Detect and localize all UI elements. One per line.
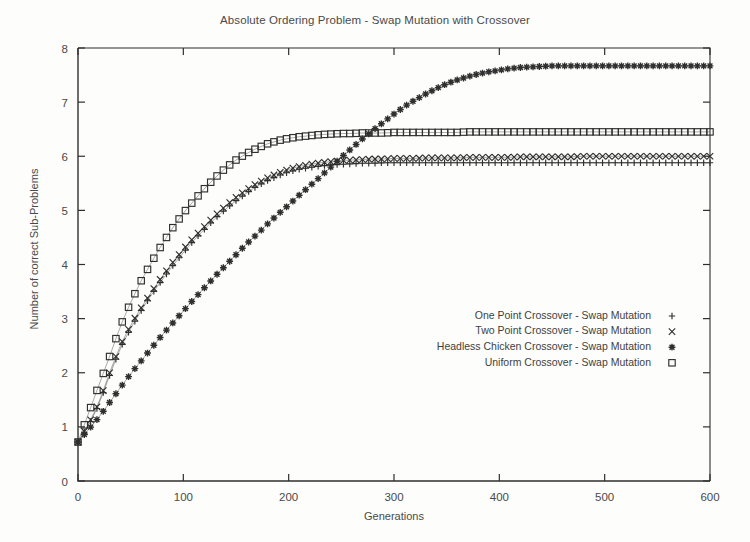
marker-star: [391, 111, 398, 118]
marker-star: [378, 120, 385, 127]
marker-star: [568, 62, 575, 69]
marker-plus: [315, 163, 321, 169]
x-tick-label: 400: [490, 491, 509, 503]
marker-star: [511, 65, 518, 72]
marker-plus: [125, 329, 131, 335]
legend-label-2: Headless Chicken Crossover - Swap Mutati…: [437, 340, 651, 352]
marker-star: [643, 62, 650, 69]
marker-star: [422, 91, 429, 98]
marker-star: [542, 63, 549, 70]
marker-star: [308, 181, 315, 188]
marker-star: [498, 66, 505, 73]
y-tick-label: 6: [62, 151, 68, 163]
marker-star: [700, 62, 707, 69]
marker-plus: [239, 193, 245, 199]
chart-figure: Absolute Ordering Problem - Swap Mutatio…: [0, 0, 750, 542]
marker-plus: [561, 160, 567, 166]
marker-star: [681, 62, 688, 69]
marker-star: [599, 62, 606, 69]
marker-star: [631, 62, 638, 69]
marker-plus: [644, 160, 650, 166]
marker-star: [479, 70, 486, 77]
marker-star: [555, 62, 562, 69]
marker-star: [656, 62, 663, 69]
marker-star: [618, 62, 625, 69]
marker-plus: [587, 160, 593, 166]
x-tick-label: 200: [279, 491, 298, 503]
marker-star: [258, 227, 265, 234]
marker-plus: [505, 160, 511, 166]
marker-plus: [650, 160, 656, 166]
marker-star: [182, 305, 189, 312]
legend-label-1: Two Point Crossover - Swap Mutation: [475, 324, 651, 336]
marker-plus: [580, 160, 586, 166]
marker-star: [245, 239, 252, 246]
marker-star: [549, 62, 556, 69]
marker-star: [454, 77, 461, 84]
marker-plus: [599, 160, 605, 166]
marker-star: [125, 373, 132, 380]
marker-plus: [530, 160, 536, 166]
marker-star: [346, 147, 353, 154]
marker-plus: [669, 313, 675, 319]
marker-plus: [555, 160, 561, 166]
marker-plus: [618, 160, 624, 166]
series-+: [75, 160, 713, 446]
marker-star: [460, 75, 467, 82]
marker-plus: [467, 160, 473, 166]
x-tick-label: 100: [174, 491, 193, 503]
plot-canvas: 012345678 0100200300400500600 One Point …: [0, 0, 750, 542]
marker-star: [176, 312, 183, 319]
marker-star: [144, 350, 151, 357]
marker-star: [264, 221, 271, 228]
marker-star: [492, 67, 499, 74]
marker-plus: [593, 160, 599, 166]
marker-star: [624, 62, 631, 69]
x-tick-label: 600: [700, 491, 719, 503]
marker-star: [707, 62, 714, 69]
marker-star: [207, 278, 214, 285]
marker-star: [214, 271, 221, 278]
marker-plus: [309, 164, 315, 170]
data-series-layer: [75, 62, 714, 445]
series-line: [78, 163, 710, 442]
marker-star: [504, 65, 511, 72]
marker-star: [669, 344, 676, 351]
marker-star: [327, 164, 334, 171]
marker-plus: [492, 160, 498, 166]
marker-star: [157, 334, 164, 341]
marker-star: [587, 62, 594, 69]
marker-star: [271, 215, 278, 222]
y-tick-label: 0: [62, 476, 68, 488]
marker-star: [296, 192, 303, 199]
marker-star: [233, 251, 240, 258]
marker-star: [517, 64, 524, 71]
marker-star: [605, 62, 612, 69]
marker-star: [150, 342, 157, 349]
series-line: [78, 156, 710, 442]
marker-star: [574, 62, 581, 69]
marker-star: [593, 62, 600, 69]
marker-plus: [517, 160, 523, 166]
marker-plus: [682, 160, 688, 166]
marker-star: [340, 152, 347, 159]
marker-star: [372, 125, 379, 132]
marker-star: [201, 284, 208, 291]
marker-star: [466, 73, 473, 80]
marker-star: [226, 258, 233, 265]
x-axis-ticks: 0100200300400500600: [75, 48, 720, 503]
marker-star: [239, 245, 246, 252]
marker-star: [397, 106, 404, 113]
marker-plus: [574, 160, 580, 166]
marker-star: [131, 365, 138, 372]
marker-star: [321, 170, 328, 177]
marker-star: [416, 94, 423, 101]
marker-star: [403, 102, 410, 109]
y-axis-ticks: 012345678: [62, 43, 710, 488]
marker-star: [694, 62, 701, 69]
marker-star: [87, 424, 94, 431]
marker-plus: [606, 160, 612, 166]
series-line: [78, 132, 710, 442]
marker-star: [441, 81, 448, 88]
marker-cross: [669, 328, 675, 334]
